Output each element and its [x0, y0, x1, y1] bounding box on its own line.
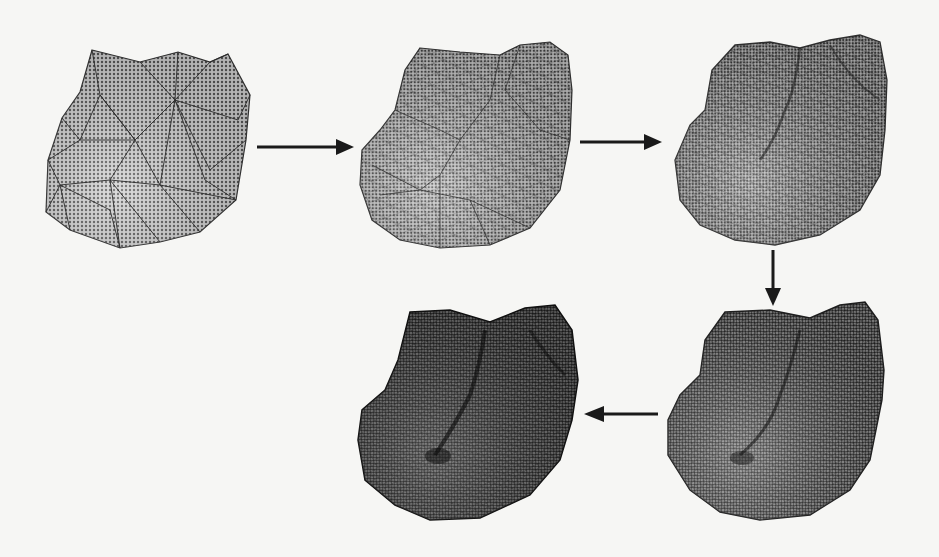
arrow-left	[584, 406, 658, 422]
arrow-right-1	[257, 139, 354, 155]
mesh-stage-1	[46, 50, 250, 248]
mesh-stage-5	[358, 305, 578, 520]
figure-canvas	[0, 0, 939, 557]
arrow-right-2	[580, 134, 662, 150]
mesh-stage-3	[675, 35, 887, 245]
mesh-stage-2	[360, 42, 572, 248]
arrow-down	[765, 250, 781, 306]
mesh-stage-4	[668, 302, 884, 520]
